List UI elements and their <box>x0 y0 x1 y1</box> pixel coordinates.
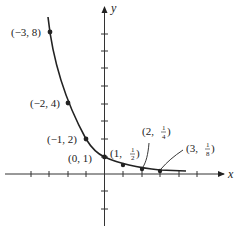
plot-area: x y (−3, 8) (−2, 4) (−1, 2) (0, 1) (1, 1… <box>0 0 238 229</box>
leader-2-quarter <box>143 143 149 167</box>
point-0-1 <box>102 155 107 160</box>
label-neg2-4: (−2, 4) <box>30 97 60 110</box>
point-neg3-8 <box>48 30 53 35</box>
point-3-eighth <box>158 169 162 173</box>
leader-3-eighth <box>161 150 183 169</box>
svg-text:4: 4 <box>162 133 166 141</box>
exponential-graph: x y (−3, 8) (−2, 4) (−1, 2) (0, 1) (1, 1… <box>0 0 238 229</box>
label-0-1: (0, 1) <box>68 152 92 165</box>
label-2-quarter: (2, 1 4 ) <box>142 124 171 141</box>
svg-text:): ) <box>136 147 140 160</box>
label-neg1-2: (−1, 2) <box>47 133 77 146</box>
label-3-eighth: (3, 1 8 ) <box>186 141 215 158</box>
svg-text:2: 2 <box>131 154 135 162</box>
point-1-half <box>121 163 125 167</box>
svg-text:): ) <box>211 142 215 155</box>
y-axis-label: y <box>110 1 117 15</box>
label-1-half: (1, 1 2 ) <box>110 146 140 162</box>
svg-text:1: 1 <box>206 141 210 149</box>
svg-text:(1,: (1, <box>110 147 122 160</box>
point-neg1-2 <box>84 137 89 142</box>
point-neg2-4 <box>66 101 71 106</box>
svg-text:8: 8 <box>206 150 210 158</box>
label-neg3-8: (−3, 8) <box>11 26 41 39</box>
svg-text:1: 1 <box>131 146 135 154</box>
svg-text:): ) <box>167 125 171 138</box>
svg-text:(3,: (3, <box>186 142 198 155</box>
svg-text:(2,: (2, <box>142 125 154 138</box>
x-axis-label: x <box>227 167 234 181</box>
point-2-quarter <box>140 167 144 171</box>
svg-text:1: 1 <box>162 124 166 132</box>
